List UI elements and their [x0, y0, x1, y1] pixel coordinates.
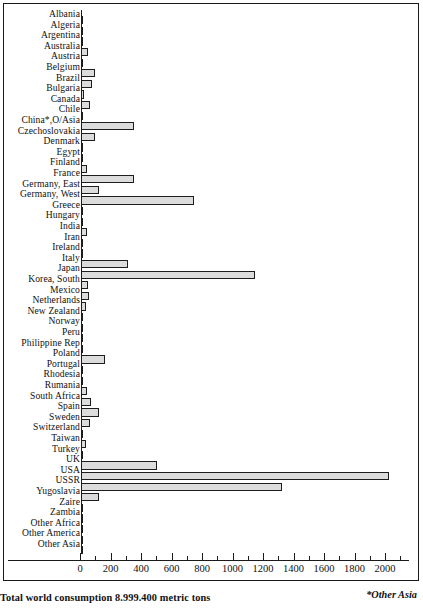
category-label: Yugoslavia [0, 485, 80, 496]
category-label: Belgium [0, 61, 80, 72]
category-label: France [0, 167, 80, 178]
category-label: Canada [0, 93, 80, 104]
category-label: Norway [0, 315, 80, 326]
x-axis-line [8, 560, 409, 561]
category-label: Hungary [0, 209, 80, 220]
category-label: Greece [0, 199, 80, 210]
category-label: Germany, East [0, 178, 80, 189]
category-label: Germany, West [0, 188, 80, 199]
axis-tick-minor [370, 556, 371, 560]
axis-tick-major [141, 553, 142, 560]
axis-tick-minor [187, 556, 188, 560]
axis-tick-major [385, 553, 386, 560]
category-label: Taiwan [0, 432, 80, 443]
category-label: Algeria [0, 19, 80, 30]
category-label: Ireland [0, 241, 80, 252]
axis-tick-major [172, 553, 173, 560]
category-label: Rumania [0, 379, 80, 390]
category-label: Peru [0, 326, 80, 337]
category-label: Japan [0, 262, 80, 273]
category-label: Chile [0, 103, 80, 114]
category-label: Turkey [0, 443, 80, 454]
category-label: Philippine Rep [0, 337, 80, 348]
category-label: New Zealand [0, 305, 80, 316]
category-label: Argentina [0, 29, 80, 40]
category-label: Switzerland [0, 421, 80, 432]
chart-page: AlbaniaAlgeriaArgentinaAustraliaAustriaB… [0, 0, 423, 612]
category-label: Italy [0, 252, 80, 263]
axis-tick-minor [126, 556, 127, 560]
category-label: Rhodesia [0, 368, 80, 379]
category-label: Egypt [0, 146, 80, 157]
category-label: Korea, South [0, 273, 80, 284]
axis-tick-minor [248, 556, 249, 560]
category-label: Czechoslovakia [0, 125, 80, 136]
category-label: Poland [0, 347, 80, 358]
axis-tick-label: 2000 [365, 563, 405, 574]
category-label: Sweden [0, 411, 80, 422]
category-label: Finland [0, 156, 80, 167]
axis-tick-minor [339, 556, 340, 560]
axis-tick-major [355, 553, 356, 560]
category-label: Spain [0, 400, 80, 411]
category-label: Other America [0, 527, 80, 538]
category-label: Other Asia [0, 538, 80, 549]
category-label: Mexico [0, 284, 80, 295]
axis-tick-minor [156, 556, 157, 560]
chart-row: Other Asia [4, 541, 420, 552]
axis-tick-major [263, 553, 264, 560]
other-asia-footnote: *Other Asia [366, 589, 417, 600]
axis-tick-minor [95, 556, 96, 560]
category-label: Denmark [0, 135, 80, 146]
category-label: South Africa [0, 390, 80, 401]
category-label: Other Africa [0, 517, 80, 528]
axis-tick-major [233, 553, 234, 560]
category-label: Austria [0, 50, 80, 61]
bar [81, 546, 83, 554]
category-label: Portugal [0, 358, 80, 369]
total-consumption-caption: Total world consumption 8.999.400 metric… [0, 592, 210, 603]
category-label: Zambia [0, 506, 80, 517]
category-label: UK [0, 453, 80, 464]
axis-tick-minor [217, 556, 218, 560]
category-label: USA [0, 464, 80, 475]
axis-tick-minor [400, 556, 401, 560]
category-label: Bulgaria [0, 82, 80, 93]
axis-tick-major [324, 553, 325, 560]
axis-tick-major [294, 553, 295, 560]
figure-frame: AlbaniaAlgeriaArgentinaAustraliaAustriaB… [3, 3, 419, 581]
axis-tick-major [202, 553, 203, 560]
category-label: Netherlands [0, 294, 80, 305]
category-label: Zaire [0, 496, 80, 507]
axis-tick-minor [278, 556, 279, 560]
plot-area: AlbaniaAlgeriaArgentinaAustraliaAustriaB… [4, 4, 420, 582]
axis-tick-major [80, 553, 81, 560]
category-label: USSR [0, 474, 80, 485]
category-label: Albania [0, 8, 80, 19]
category-label: Iran [0, 231, 80, 242]
category-label: Brazil [0, 72, 80, 83]
category-label: China*,O/Asia [0, 114, 80, 125]
axis-tick-minor [309, 556, 310, 560]
category-label: India [0, 220, 80, 231]
category-label: Australia [0, 40, 80, 51]
axis-tick-major [111, 553, 112, 560]
